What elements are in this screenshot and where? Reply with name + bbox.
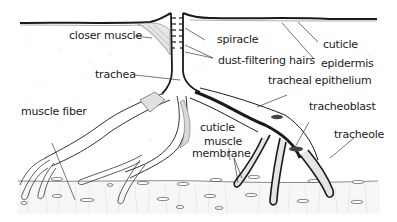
label-epidermis: epidermis: [321, 58, 374, 69]
spiracle: [162, 13, 200, 94]
label-closer-muscle: closer muscle: [69, 30, 142, 41]
label-dust-filtering-hairs: dust-filtering hairs: [218, 55, 315, 66]
label-cuticle-inner: cuticle: [200, 122, 235, 133]
label-tracheole: tracheole: [334, 129, 384, 140]
label-trachea: trachea: [95, 69, 136, 80]
label-cuticle-outer: cuticle: [323, 39, 358, 50]
label-tracheoblast: tracheoblast: [309, 101, 376, 112]
label-muscle-fiber: muscle fiber: [21, 106, 87, 117]
tracheal-system-diagram: closer muscle spiracle cuticle dust-filt…: [0, 0, 397, 222]
label-tracheal-epithelium: tracheal epithelium: [268, 75, 372, 86]
label-muscle-membrane-line1: muscle: [204, 136, 242, 147]
label-spiracle: spiracle: [217, 34, 258, 45]
label-muscle-membrane-line2: membrane: [192, 148, 251, 159]
